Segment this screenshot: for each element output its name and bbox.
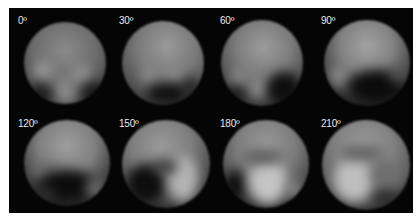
frame-150deg: 150º	[110, 111, 211, 213]
pluto-globe	[24, 22, 106, 104]
frame-120deg: 120º	[9, 111, 110, 213]
rotation-label: 60º	[220, 15, 234, 26]
frame-180deg: 180º	[211, 111, 312, 213]
pluto-globe	[223, 120, 309, 208]
frame-30deg: 30º	[110, 8, 211, 110]
pluto-image-grid: 0º 30º 60º 90º	[9, 8, 413, 213]
rotation-label: 150º	[119, 118, 139, 129]
rotation-label: 180º	[220, 118, 240, 129]
pluto-globe	[324, 20, 410, 106]
rotation-label: 30º	[119, 15, 133, 26]
pluto-globe	[24, 120, 110, 206]
frame-210deg: 210º	[312, 111, 413, 213]
rotation-label: 0º	[18, 15, 27, 26]
rotation-label: 90º	[321, 15, 335, 26]
pluto-globe	[122, 120, 210, 208]
frame-60deg: 60º	[211, 8, 312, 110]
frame-90deg: 90º	[312, 8, 413, 110]
rotation-label: 120º	[18, 118, 38, 129]
pluto-globe	[122, 21, 204, 105]
rotation-label: 210º	[321, 118, 341, 129]
frame-0deg: 0º	[9, 8, 110, 110]
pluto-globe	[221, 20, 303, 106]
pluto-globe	[322, 120, 410, 210]
